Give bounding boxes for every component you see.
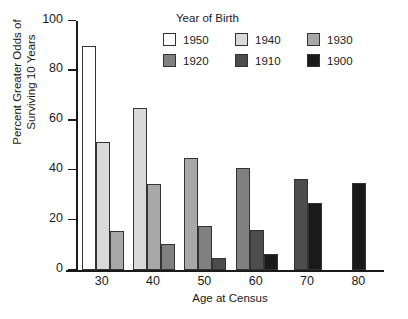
y-axis-tick-label: 20 bbox=[49, 211, 63, 225]
legend-label-1940: 1940 bbox=[255, 34, 281, 46]
bar-1940-age-40 bbox=[133, 108, 147, 270]
y-axis-tick: 0 bbox=[68, 269, 76, 271]
bar-1900-age-70 bbox=[308, 203, 322, 270]
legend-item-1950: 1950 bbox=[163, 33, 235, 46]
legend-item-1940: 1940 bbox=[235, 33, 307, 46]
bar-1940-age-30 bbox=[96, 142, 110, 270]
legend-item-1910: 1910 bbox=[235, 54, 307, 67]
legend-label-1930: 1930 bbox=[327, 34, 353, 46]
legend-swatch-1930 bbox=[307, 33, 320, 46]
x-axis-tick-label: 80 bbox=[328, 274, 388, 288]
y-axis-tick-label: 40 bbox=[49, 161, 63, 175]
legend-item-1920: 1920 bbox=[163, 54, 235, 67]
bar-1920-age-50 bbox=[198, 226, 212, 270]
legend-label-1920: 1920 bbox=[183, 55, 209, 67]
bar-1910-age-60 bbox=[250, 230, 264, 270]
legend-item-1900: 1900 bbox=[307, 54, 378, 67]
legend-swatch-1950 bbox=[163, 33, 176, 46]
legend-swatch-1940 bbox=[235, 33, 248, 46]
bar-1920-age-60 bbox=[236, 168, 250, 270]
y-axis-tick-label: 100 bbox=[42, 12, 63, 26]
legend-label-1910: 1910 bbox=[255, 55, 281, 67]
legend-swatch-1910 bbox=[235, 54, 248, 67]
y-axis-tick: 40 bbox=[68, 169, 76, 171]
legend: Year of Birth 195019401930192019101900 bbox=[163, 12, 378, 71]
y-axis-tick: 60 bbox=[68, 119, 76, 121]
y-axis-title-line-1: Percent Greater Odds of bbox=[10, 0, 24, 192]
bar-1930-age-30 bbox=[110, 231, 124, 270]
legend-swatch-1900 bbox=[307, 54, 320, 67]
bar-1900-age-60 bbox=[264, 254, 278, 270]
x-axis-line bbox=[66, 270, 384, 272]
y-axis-title: Percent Greater Odds of Surviving 10 Yea… bbox=[10, 0, 50, 192]
bar-1950-age-30 bbox=[82, 46, 96, 270]
y-axis-tick-label: 60 bbox=[49, 111, 63, 125]
bar-1910-age-70 bbox=[294, 179, 308, 270]
y-axis-tick-label: 80 bbox=[49, 61, 63, 75]
legend-item-1930: 1930 bbox=[307, 33, 378, 46]
legend-label-1950: 1950 bbox=[183, 34, 209, 46]
bar-1910-age-50 bbox=[212, 258, 226, 270]
y-axis-tick: 20 bbox=[68, 219, 76, 221]
legend-swatch-1920 bbox=[163, 54, 176, 67]
y-axis-tick-label: 0 bbox=[56, 261, 63, 275]
legend-title: Year of Birth bbox=[176, 12, 378, 24]
bar-group: 30 bbox=[76, 21, 127, 270]
y-axis-tick: 80 bbox=[68, 69, 76, 71]
legend-items: 195019401930192019101900 bbox=[163, 29, 378, 71]
bar-1930-age-50 bbox=[184, 158, 198, 270]
y-axis-tick: 100 bbox=[68, 20, 76, 22]
bar-1900-age-80 bbox=[352, 183, 366, 270]
x-axis-title: Age at Census bbox=[76, 292, 384, 304]
y-axis-title-line-2: Surviving 10 Years bbox=[24, 0, 38, 192]
bar-chart-figure: Percent Greater Odds of Surviving 10 Yea… bbox=[0, 0, 408, 319]
legend-label-1900: 1900 bbox=[327, 55, 353, 67]
bar-1920-age-40 bbox=[161, 244, 175, 270]
bar-1930-age-40 bbox=[147, 184, 161, 270]
